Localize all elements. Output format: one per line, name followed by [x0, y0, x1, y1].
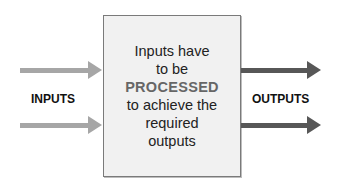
arrow-head-icon	[88, 61, 102, 79]
process-text-line-6: outputs	[148, 132, 196, 150]
process-text-line-5: required	[145, 114, 198, 132]
input-arrow-shaft	[20, 123, 88, 128]
outputs-label: OUTPUTS	[252, 92, 309, 106]
process-text-emphasis: PROCESSED	[125, 78, 219, 96]
process-box: Inputs have to be PROCESSED to achieve t…	[103, 15, 241, 177]
arrow-head-icon	[88, 116, 102, 134]
process-text-line-2: to be	[156, 60, 188, 78]
process-text-line-4: to achieve the	[127, 96, 217, 114]
input-arrow-shaft	[20, 68, 88, 73]
output-arrow-shaft	[241, 123, 307, 128]
process-text-line-1: Inputs have	[135, 42, 210, 60]
arrow-head-icon	[307, 116, 321, 134]
arrow-head-icon	[307, 61, 321, 79]
inputs-label: INPUTS	[31, 92, 75, 106]
output-arrow-shaft	[241, 68, 307, 73]
